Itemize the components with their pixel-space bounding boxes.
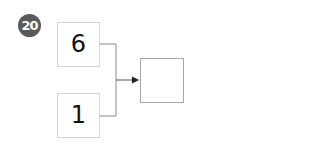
answer-box[interactable] (140, 58, 184, 103)
arrow-right-icon (132, 77, 139, 84)
